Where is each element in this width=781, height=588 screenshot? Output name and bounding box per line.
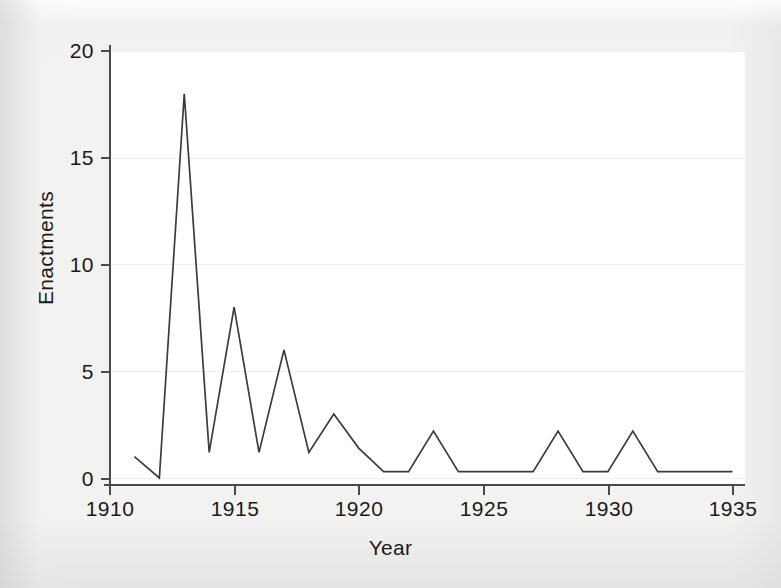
gridline-0 (110, 478, 745, 479)
gridline-10 (110, 264, 745, 265)
x-tick-label-1930: 1930 (569, 497, 649, 521)
x-tick-1930 (608, 486, 610, 495)
y-tick-5 (101, 371, 110, 373)
x-tick-label-1935: 1935 (693, 497, 773, 521)
chart-figure: 20 15 10 5 0 1910 1915 1920 1925 1930 19… (0, 0, 781, 588)
y-tick-20 (101, 50, 110, 52)
y-tick-0 (101, 478, 110, 480)
x-tick-1935 (732, 486, 734, 495)
gridline-5 (110, 371, 745, 372)
y-tick-label-5: 5 (48, 360, 94, 384)
x-tick-1920 (358, 486, 360, 495)
y-tick-10 (101, 264, 110, 266)
plot-area (110, 51, 745, 485)
x-tick-label-1910: 1910 (70, 497, 150, 521)
gridline-15 (110, 158, 745, 159)
y-tick-label-20: 20 (48, 39, 94, 63)
x-tick-label-1925: 1925 (444, 497, 524, 521)
x-axis-title: Year (0, 536, 781, 560)
x-tick-1915 (234, 486, 236, 495)
x-tick-label-1915: 1915 (195, 497, 275, 521)
x-tick-label-1920: 1920 (319, 497, 399, 521)
x-axis-line (104, 484, 745, 486)
x-tick-1910 (109, 486, 111, 495)
x-tick-1925 (483, 486, 485, 495)
y-tick-label-0: 0 (48, 467, 94, 491)
gridline-20 (110, 51, 745, 52)
y-axis-title: Enactments (34, 138, 58, 358)
y-tick-15 (101, 157, 110, 159)
